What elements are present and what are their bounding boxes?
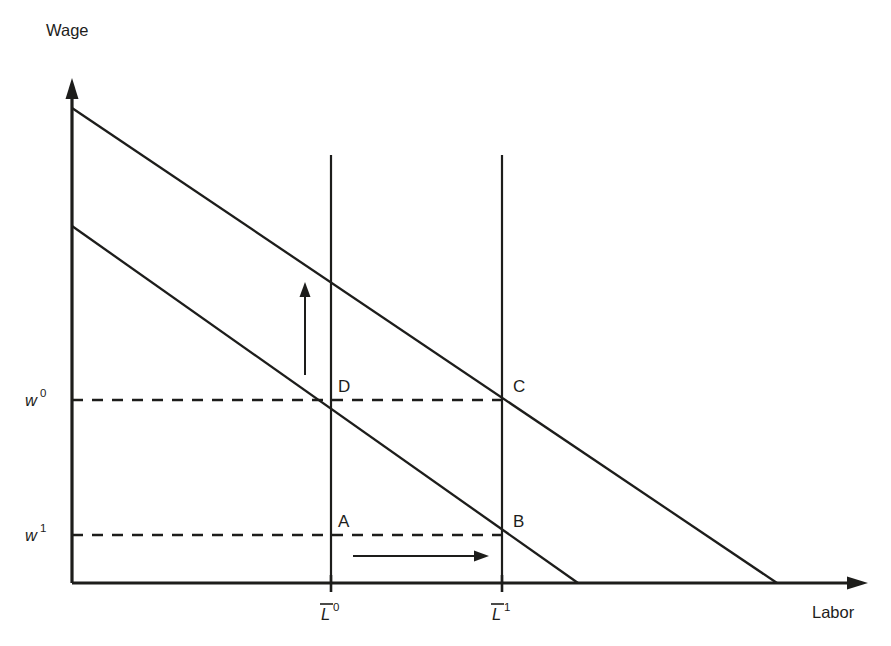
x-tick-label-L1: L 1 [491,601,510,623]
point-label-D: D [338,377,350,396]
wage-increase-arrow [300,282,311,375]
x-axis-title: Labor [812,603,855,621]
point-label-C: C [513,377,525,396]
y-axis [66,78,79,583]
figure-container: Wage Labor w 0 w 1 L 0 L [0,0,891,646]
x-tick-base-L1: L [492,605,501,623]
x-axis-arrowhead [847,577,868,590]
y-tick-sup-w0: 0 [40,387,46,399]
y-axis-arrowhead [66,78,79,99]
labor-market-diagram: Wage Labor w 0 w 1 L 0 L [0,0,891,646]
y-tick-base-w0: w [25,391,38,409]
point-label-B: B [513,512,524,531]
y-tick-label-w0: w 0 [25,387,46,409]
y-tick-sup-w1: 1 [40,522,46,534]
x-tick-sup-L0: 0 [333,601,339,613]
labor-demand-curve-shifted [72,108,777,583]
labor-supply-shift-arrow [353,551,489,562]
x-axis [72,577,868,590]
x-tick-label-L0: L 0 [320,601,339,623]
x-tick-sup-L1: 1 [504,601,510,613]
y-tick-label-w1: w 1 [25,522,46,544]
x-tick-base-L0: L [321,605,330,623]
point-label-A: A [338,512,350,531]
y-axis-title: Wage [46,21,89,39]
labor-supply-shift-arrow-head [474,551,489,562]
wage-increase-arrow-head [300,282,311,297]
y-tick-base-w1: w [25,526,38,544]
